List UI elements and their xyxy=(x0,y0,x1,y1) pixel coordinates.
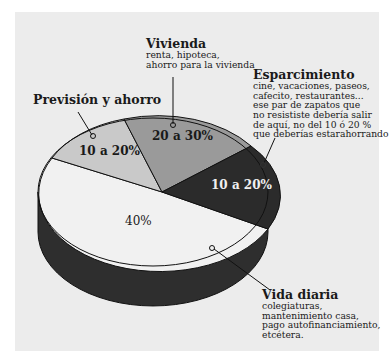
callout-line-esparcimiento xyxy=(264,138,275,163)
pct-esparcimiento: 10 a 20% xyxy=(211,178,272,192)
label-prevision: Previsión y ahorro xyxy=(33,93,161,106)
pct-prevision: 10 a 20% xyxy=(79,144,140,158)
pct-vida-diaria: 40% xyxy=(125,214,152,228)
label-vivienda: Vivienda renta, hipoteca, ahorro para la… xyxy=(146,37,255,69)
label-esparcimiento: Esparcimiento cine, vacaciones, paseos, … xyxy=(253,68,388,139)
pct-vivienda: 20 a 30% xyxy=(152,129,213,143)
label-vida-diaria: Vida diaria colegiaturas, mantenimiento … xyxy=(262,288,380,340)
